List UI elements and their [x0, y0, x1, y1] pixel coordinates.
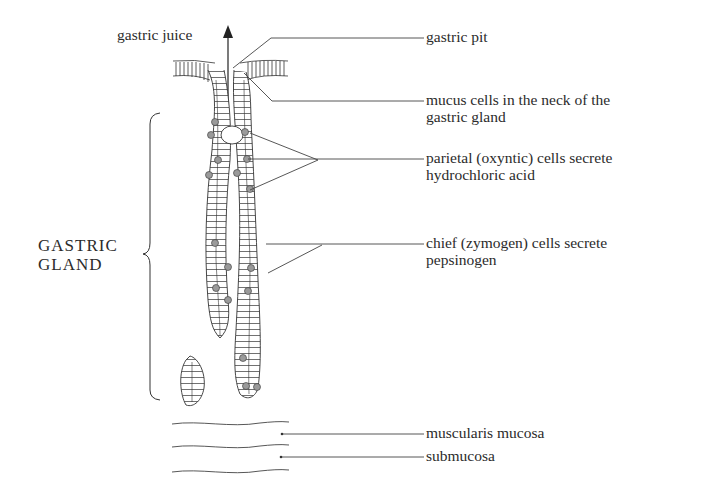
label-text: GLAND: [38, 255, 118, 274]
leader-gastric-pit: [233, 38, 424, 68]
leader-lines: [233, 38, 424, 457]
label-gastric-gland: GASTRIC GLAND: [38, 236, 118, 274]
muscularis-layer-lines: [172, 422, 289, 473]
label-submucosa: submucosa: [426, 447, 495, 464]
label-text: gastric juice: [117, 26, 192, 43]
label-text: parietal (oxyntic) cells secrete: [426, 149, 612, 166]
label-text: gastric gland: [426, 108, 610, 125]
surface-epithelium: [173, 60, 288, 82]
gland-fragment: [181, 356, 205, 406]
label-text: mucus cells in the neck of the: [426, 91, 610, 108]
label-text: hydrochloric acid: [426, 166, 612, 183]
label-text: gastric pit: [426, 28, 488, 45]
label-text: muscularis mucosa: [426, 424, 544, 441]
label-chief-cells: chief (zymogen) cells secrete pepsinogen: [426, 234, 607, 268]
label-mucus-cells: mucus cells in the neck of the gastric g…: [426, 91, 610, 125]
label-text: chief (zymogen) cells secrete: [426, 234, 607, 251]
gastric-gland-bracket: [143, 113, 160, 400]
label-parietal-cells: parietal (oxyntic) cells secrete hydroch…: [426, 149, 612, 183]
right-gastric-tubule: [233, 70, 260, 398]
label-gastric-pit: gastric pit: [426, 28, 488, 45]
label-text: submucosa: [426, 447, 495, 464]
label-text: GASTRIC: [38, 236, 118, 255]
gland-neck: [221, 126, 243, 144]
label-muscularis-mucosa: muscularis mucosa: [426, 424, 544, 441]
label-text: pepsinogen: [426, 251, 607, 268]
leader-parietal-cells: [248, 133, 424, 190]
label-gastric-juice: gastric juice: [117, 26, 192, 43]
leader-chief-cells: [266, 244, 424, 273]
leader-mucus-cells: [244, 73, 424, 101]
